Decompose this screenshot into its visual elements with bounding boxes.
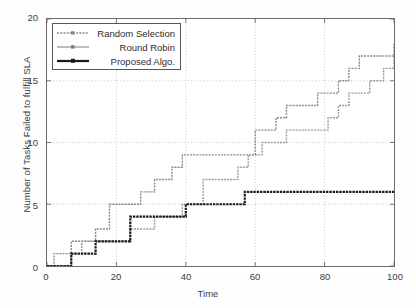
x-tick-label-0: 0 <box>26 271 66 282</box>
chart-legend: Random Selection Round Robin Proposed Al… <box>52 23 181 70</box>
series-line-1 <box>47 56 394 266</box>
series-line-2 <box>47 192 394 266</box>
legend-label-random-selection: Random Selection <box>90 28 177 39</box>
legend-item-random-selection: Random Selection <box>56 26 177 40</box>
x-tick-label-20: 20 <box>96 271 136 282</box>
legend-swatch-proposed-algo <box>56 55 90 67</box>
legend-item-round-robin: Round Robin <box>56 40 177 54</box>
x-axis-title: Time <box>0 288 416 299</box>
y-tick-label-10: 10 <box>8 137 38 148</box>
chart-figure: Number of Tasks Failed to fulfill SLA 0 … <box>0 0 416 308</box>
y-tick-label-15: 15 <box>8 75 38 86</box>
legend-swatch-round-robin <box>56 41 90 53</box>
legend-item-proposed-algo: Proposed Algo. <box>56 54 177 68</box>
x-tick-label-80: 80 <box>305 271 345 282</box>
legend-label-proposed-algo: Proposed Algo. <box>90 56 177 67</box>
legend-label-round-robin: Round Robin <box>90 42 177 53</box>
plot-area: Random Selection Round Robin Proposed Al… <box>46 18 395 267</box>
x-tick-label-40: 40 <box>166 271 206 282</box>
x-tick-label-60: 60 <box>235 271 275 282</box>
legend-swatch-random-selection <box>56 27 90 39</box>
series-line-0 <box>47 44 394 266</box>
x-tick-label-100: 100 <box>375 271 415 282</box>
y-tick-label-5: 5 <box>8 200 38 211</box>
y-tick-label-20: 20 <box>8 12 38 23</box>
